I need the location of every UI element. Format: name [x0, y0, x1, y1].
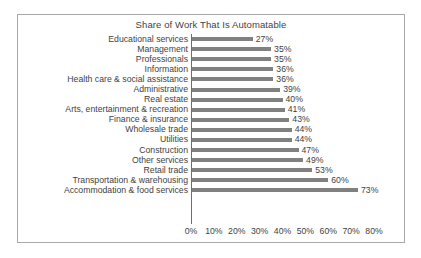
bar-track: 47% — [191, 145, 404, 155]
x-tick-label: 70% — [342, 226, 359, 236]
y-axis-line — [191, 34, 192, 224]
category-label: Other services — [18, 156, 191, 165]
category-label: Administrative — [18, 85, 191, 94]
plot-area: Educational services27%Management35%Prof… — [18, 34, 404, 224]
chart-container: Share of Work That Is Automatable Educat… — [17, 14, 405, 243]
x-tick-label: 50% — [297, 226, 314, 236]
bar-row: Management35% — [18, 44, 404, 54]
category-label: Management — [18, 45, 191, 54]
x-tick-label: 80% — [365, 226, 382, 236]
bar-value-label: 47% — [299, 146, 319, 155]
bar-value-label: 35% — [271, 55, 291, 64]
bar-row: Professionals35% — [18, 54, 404, 64]
bar-track: 43% — [191, 115, 404, 125]
bar-track: 53% — [191, 165, 404, 175]
bar-value-label: 73% — [358, 186, 378, 195]
x-tick-label: 30% — [251, 226, 268, 236]
bar-row: Real estate40% — [18, 95, 404, 105]
bar — [191, 108, 285, 112]
bar-row: Other services49% — [18, 155, 404, 165]
bar — [191, 47, 271, 51]
bar-track: 35% — [191, 44, 404, 54]
bar-value-label: 53% — [312, 166, 332, 175]
bar-row: Finance & insurance43% — [18, 115, 404, 125]
bar — [191, 178, 328, 182]
bar-value-label: 49% — [303, 156, 323, 165]
category-label: Educational services — [18, 35, 191, 44]
bar-value-label: 60% — [328, 176, 348, 185]
bar-row: Construction47% — [18, 145, 404, 155]
bar-track: 49% — [191, 155, 404, 165]
bar-row: Health care & social assistance36% — [18, 74, 404, 84]
bar-value-label: 43% — [289, 115, 309, 124]
bar-value-label: 27% — [253, 35, 273, 44]
bar-row: Administrative39% — [18, 84, 404, 94]
chart-title: Share of Work That Is Automatable — [18, 19, 404, 30]
bar — [191, 118, 289, 122]
bar-track: 41% — [191, 105, 404, 115]
x-tick-label: 10% — [205, 226, 222, 236]
bar — [191, 37, 253, 41]
bar-track: 36% — [191, 64, 404, 74]
bar — [191, 148, 299, 152]
category-label: Information — [18, 65, 191, 74]
x-tick-label: 60% — [320, 226, 337, 236]
bar — [191, 77, 273, 81]
bar-value-label: 40% — [283, 95, 303, 104]
bar-track: 39% — [191, 84, 404, 94]
bar-track: 36% — [191, 74, 404, 84]
category-label: Construction — [18, 146, 191, 155]
bar-value-label: 36% — [273, 65, 293, 74]
bar-value-label: 44% — [292, 135, 312, 144]
category-label: Professionals — [18, 55, 191, 64]
bar — [191, 188, 358, 192]
category-label: Real estate — [18, 95, 191, 104]
category-label: Finance & insurance — [18, 115, 191, 124]
bar — [191, 168, 312, 172]
bar-value-label: 41% — [285, 105, 305, 114]
x-tick-label: 0% — [185, 226, 198, 236]
bar-row: Wholesale trade44% — [18, 125, 404, 135]
bar — [191, 158, 303, 162]
bar-track: 60% — [191, 175, 404, 185]
bar-row: Accommodation & food services73% — [18, 185, 404, 195]
bar-row: Utilities44% — [18, 135, 404, 145]
bar-value-label: 36% — [273, 75, 293, 84]
bar — [191, 128, 292, 132]
bar-track: 40% — [191, 95, 404, 105]
bar-value-label: 39% — [280, 85, 300, 94]
bar-value-label: 35% — [271, 45, 291, 54]
bar-row: Information36% — [18, 64, 404, 74]
bar-row: Transportation & warehousing60% — [18, 175, 404, 185]
bar-track: 44% — [191, 125, 404, 135]
category-label: Accommodation & food services — [18, 186, 191, 195]
bar — [191, 67, 273, 71]
bar — [191, 98, 283, 102]
x-tick-label: 40% — [274, 226, 291, 236]
category-label: Retail trade — [18, 166, 191, 175]
bar — [191, 138, 292, 142]
bar-row: Retail trade53% — [18, 165, 404, 175]
bar-track: 44% — [191, 135, 404, 145]
bar-row: Arts, entertainment & recreation41% — [18, 105, 404, 115]
bar-track: 27% — [191, 34, 404, 44]
bar — [191, 57, 271, 61]
category-label: Wholesale trade — [18, 125, 191, 134]
bar — [191, 88, 280, 92]
x-tick-label: 20% — [228, 226, 245, 236]
category-label: Arts, entertainment & recreation — [18, 105, 191, 114]
bar-track: 35% — [191, 54, 404, 64]
bar-value-label: 44% — [292, 125, 312, 134]
x-axis: 0%10%20%30%40%50%60%70%80% — [191, 226, 404, 240]
category-label: Transportation & warehousing — [18, 176, 191, 185]
bar-row: Educational services27% — [18, 34, 404, 44]
bar-track: 73% — [191, 185, 404, 195]
category-label: Utilities — [18, 135, 191, 144]
category-label: Health care & social assistance — [18, 75, 191, 84]
